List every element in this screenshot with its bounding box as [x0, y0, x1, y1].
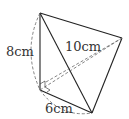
- height-label: 8cm: [6, 45, 34, 58]
- geometry-figure: 8cm 10cm 6cm: [0, 0, 129, 119]
- dashed-edges: [31, 13, 122, 114]
- solid-edges: [40, 13, 122, 113]
- edge-top-bottom: [40, 13, 92, 113]
- right-angle-icon: [45, 87, 50, 92]
- slant-label: 10cm: [65, 40, 101, 53]
- edge-top-right: [40, 13, 122, 38]
- base-label: 6cm: [45, 102, 73, 115]
- right-angle-icon: [40, 81, 45, 87]
